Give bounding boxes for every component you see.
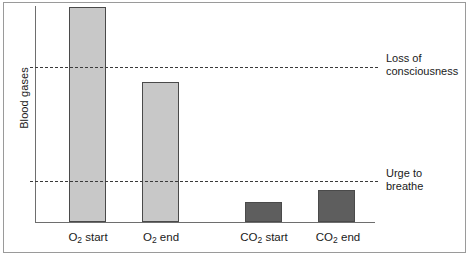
threshold-label-urge-to-breathe: Urge to breathe <box>386 167 423 193</box>
x-tick-label-co2-end: CO2 end <box>305 231 371 243</box>
bar-co2-start <box>245 202 282 222</box>
threshold-line-urge-to-breathe <box>30 181 378 182</box>
threshold-label-loss-of-consciousness-line2: consciousness <box>386 65 458 78</box>
x-tick-label-o2-end: O2 end <box>132 231 190 243</box>
blood-gases-bar-chart: Blood gases Loss of consciousness Urge t… <box>0 0 470 257</box>
bar-o2-start <box>69 7 106 222</box>
bar-o2-end <box>142 82 179 222</box>
threshold-label-urge-to-breathe-line2: breathe <box>386 180 423 193</box>
bar-co2-end <box>318 190 355 222</box>
threshold-label-loss-of-consciousness-line1: Loss of <box>386 52 458 65</box>
y-axis-line <box>35 6 36 223</box>
x-tick-label-o2-start: O2 start <box>57 231 119 243</box>
x-tick-label-co2-start: CO2 start <box>229 231 299 243</box>
y-axis-title: Blood gases <box>18 38 30 158</box>
x-axis-line <box>35 222 375 223</box>
threshold-line-loss-of-consciousness <box>30 67 378 68</box>
threshold-label-loss-of-consciousness: Loss of consciousness <box>386 52 458 78</box>
threshold-label-urge-to-breathe-line1: Urge to <box>386 167 423 180</box>
